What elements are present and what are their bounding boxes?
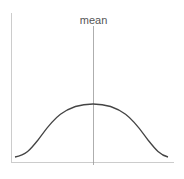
mean-label: mean (80, 14, 108, 26)
bell-curve-diagram: mean (0, 0, 184, 179)
normal-curve (15, 104, 168, 157)
